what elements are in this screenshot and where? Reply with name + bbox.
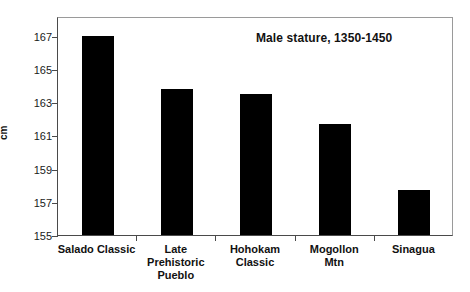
x-axis-category-label: Salado Classic [57,243,136,256]
bar [240,94,272,235]
bar [319,124,351,235]
y-tick-label: 155 [22,230,52,242]
y-tick-label: 163 [22,97,52,109]
y-tick-label: 165 [22,64,52,76]
y-tick-label: 161 [22,130,52,142]
y-tick-label: 157 [22,197,52,209]
bar [161,89,193,235]
x-axis-category-label: Mogollon Mtn [295,243,374,269]
x-tick-mark [136,236,137,241]
x-axis-category-label: Hohokam Classic [215,243,294,269]
y-tick-label: 167 [22,31,52,43]
bar [398,190,430,235]
y-tick-label: 159 [22,164,52,176]
x-axis-category-label: Late Prehistoric Pueblo [136,243,215,282]
x-tick-mark [374,236,375,241]
bar-chart: cm 155157159161163165167 Salado ClassicL… [0,0,470,292]
x-tick-mark [215,236,216,241]
y-tick-mark [52,236,58,237]
plot-area [57,17,453,236]
x-axis-category-label: Sinagua [374,243,453,256]
x-tick-mark [295,236,296,241]
bar [82,36,114,235]
chart-title: Male stature, 1350-1450 [256,31,392,45]
